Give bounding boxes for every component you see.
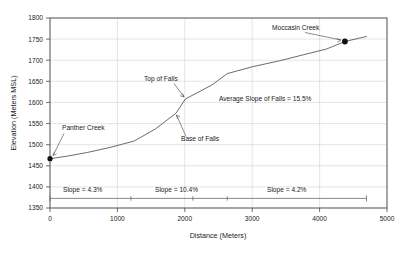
average-slope-label: Average Slope of Falls = 15.5% [219, 95, 312, 103]
y-tick-label: 1350 [28, 204, 43, 211]
panther-creek-marker [47, 156, 52, 161]
slope-label-reach-3: Slope = 4.2% [267, 186, 307, 194]
y-tick-label: 1750 [28, 36, 43, 43]
base-of-falls-label: Base of Falls [181, 135, 220, 142]
x-axis-title: Distance (Meters) [190, 231, 247, 240]
y-tick-label: 1800 [28, 14, 43, 21]
x-tick-label: 3000 [245, 215, 260, 222]
x-tick-label: 5000 [380, 215, 395, 222]
y-axis-title: Elevation (Meters MSL) [9, 75, 18, 150]
y-tick-label: 1650 [28, 78, 43, 85]
y-tick-label: 1550 [28, 120, 43, 127]
panther-creek-label: Panther Creek [62, 124, 105, 131]
chart-figure: 1800 1750 1700 1650 1600 1550 1500 1450 … [0, 0, 415, 261]
slope-label-reach-1: Slope = 4.3% [63, 186, 103, 194]
x-axis-tickmarks [50, 208, 387, 212]
x-tick-label: 1000 [110, 215, 125, 222]
y-axis-tick-labels: 1800 1750 1700 1650 1600 1550 1500 1450 … [28, 14, 43, 211]
moccasin-creek-label: Moccasin Creek [272, 24, 320, 31]
plot-background [50, 18, 387, 208]
x-axis-tick-labels: 0 1000 2000 3000 4000 5000 [48, 215, 395, 222]
top-of-falls-label: Top of Falls [144, 75, 178, 83]
x-tick-label: 2000 [177, 215, 192, 222]
y-tick-label: 1700 [28, 57, 43, 64]
y-tick-label: 1400 [28, 183, 43, 190]
y-tick-label: 1600 [28, 99, 43, 106]
moccasin-creek-marker [342, 39, 348, 45]
y-tick-label: 1450 [28, 162, 43, 169]
elevation-profile-chart: 1800 1750 1700 1650 1600 1550 1500 1450 … [0, 0, 415, 261]
x-tick-label: 4000 [312, 215, 327, 222]
y-axis-tickmarks [46, 18, 50, 208]
y-tick-label: 1500 [28, 141, 43, 148]
slope-label-reach-2: Slope = 10.4% [155, 186, 198, 194]
x-tick-label: 0 [48, 215, 52, 222]
